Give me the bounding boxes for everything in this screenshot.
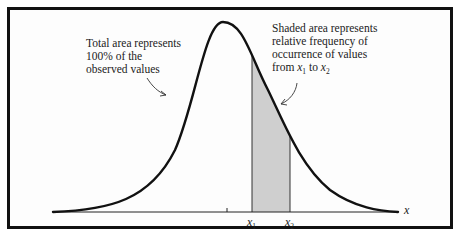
x-axis-label: x [404,203,409,218]
annotation-line: occurrence of values [272,48,377,61]
annotation-text: to [306,61,321,73]
annotation-line: from x1 to x2 [272,61,377,78]
normal-curve-figure [0,0,460,245]
annotation-line: Total area represents [86,37,181,50]
annotation-line: relative frequency of [272,35,377,48]
variable-x2: x2 [321,61,330,73]
annotation-line: observed values [86,63,181,76]
tick-label-x1: x1 [247,215,256,231]
shaded-area-annotation: Shaded area represents relative frequenc… [272,22,377,78]
tick-label-x2: x2 [285,215,294,231]
total-area-arrow-icon [147,78,166,96]
variable-x1: x1 [297,61,306,73]
shaded-area-arrow-icon [281,83,297,105]
total-area-annotation: Total area represents 100% of the observ… [86,37,181,76]
annotation-line: 100% of the [86,50,181,63]
annotation-text: from [272,61,297,73]
annotation-line: Shaded area represents [272,22,377,35]
